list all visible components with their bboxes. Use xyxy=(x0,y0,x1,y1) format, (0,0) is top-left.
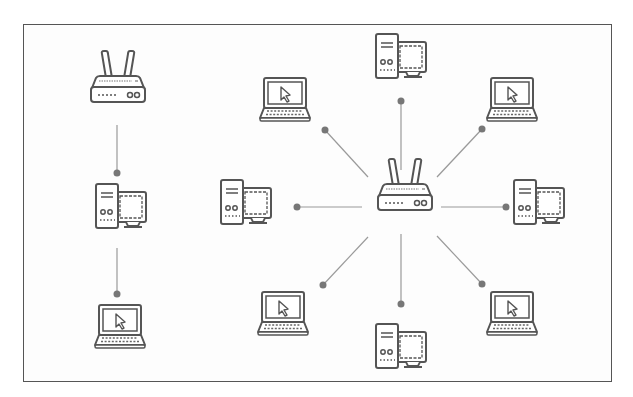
router-icon xyxy=(91,51,145,102)
laptop-icon xyxy=(258,292,308,335)
connection-endpoint-dot xyxy=(479,281,486,288)
connection-dots xyxy=(114,98,510,308)
connection-endpoint-dot xyxy=(320,282,327,289)
laptop-icon xyxy=(260,78,310,121)
desktop-icon xyxy=(514,180,564,224)
connection-endpoint-dot xyxy=(398,301,405,308)
connection-line xyxy=(325,130,368,177)
connection-endpoint-dot xyxy=(398,98,405,105)
laptop-icon xyxy=(487,292,537,335)
connection-endpoint-dot xyxy=(114,170,121,177)
connection-endpoint-dot xyxy=(479,126,486,133)
router-icon xyxy=(378,159,432,210)
connection-line xyxy=(437,129,482,177)
desktop-icon xyxy=(376,34,426,78)
network-diagram xyxy=(0,0,633,397)
connection-endpoint-dot xyxy=(503,204,510,211)
connection-line xyxy=(437,236,482,284)
connection-line xyxy=(323,237,368,285)
desktop-icon xyxy=(376,324,426,368)
desktop-icon xyxy=(96,184,146,228)
laptop-icon xyxy=(487,78,537,121)
desktop-icon xyxy=(221,180,271,224)
connection-endpoint-dot xyxy=(294,204,301,211)
connections xyxy=(117,101,506,304)
connection-endpoint-dot xyxy=(322,127,329,134)
laptop-icon xyxy=(95,305,145,348)
connection-endpoint-dot xyxy=(114,291,121,298)
devices xyxy=(91,34,564,368)
